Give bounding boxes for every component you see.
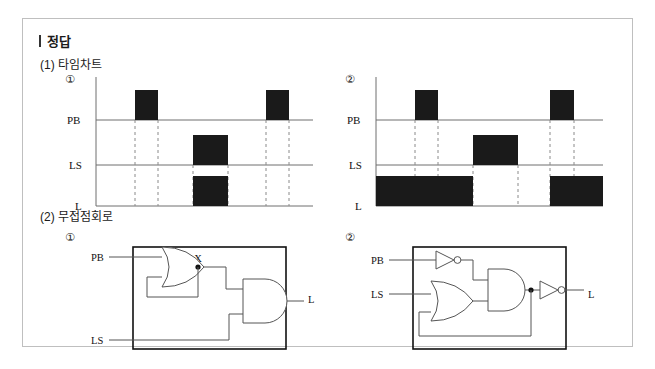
chart2-label-L: L — [355, 200, 362, 212]
circuit2-or-gate — [431, 281, 473, 321]
chart1-L-pulse-1 — [193, 176, 228, 206]
circuit1-input-label-PB: PB — [91, 252, 104, 263]
circuit1-and-gate — [243, 279, 287, 323]
circuit2-output-label-L: L — [588, 289, 594, 300]
circuit2-bubble-pb — [454, 257, 461, 264]
answer-title: 정답 — [39, 31, 71, 50]
circuit2-input-label-PB: PB — [371, 255, 384, 266]
chart2-label-PB: PB — [347, 114, 360, 126]
circuit1-wire-ls — [109, 314, 229, 340]
chart1-PB-pulse-2 — [266, 90, 289, 120]
chart1-PB-pulse-1 — [135, 90, 158, 120]
title-marker-bar — [39, 35, 41, 47]
chart1-label-LS: LS — [69, 159, 82, 171]
circuit2-input-label-LS: LS — [371, 289, 383, 300]
circuit2-not-gate-out — [540, 281, 558, 299]
chart2-PB-pulse-2 — [550, 90, 574, 120]
page-root: 정답 (1) 타임차트 (2) 무접점회로 ① ② ① ② PB LS L — [0, 0, 655, 369]
circuit2-and-gate — [488, 269, 525, 311]
circuit2-not-gate-pb — [436, 251, 454, 269]
circuit1-wire-x-to-and — [226, 267, 243, 289]
chart2-L-pulse-2 — [550, 176, 603, 206]
timing-chart-1: PB LS L — [61, 65, 321, 210]
circuit2-bubble-out — [558, 287, 565, 294]
circuit2-wire-notpb-to-and — [461, 260, 488, 280]
circuit1-output-label-L: L — [308, 294, 314, 305]
logic-circuit-1: PB LS X L — [61, 219, 321, 359]
answer-title-text: 정답 — [47, 34, 71, 49]
circuit1-input-label-LS: LS — [91, 335, 103, 346]
chart1-label-L: L — [75, 200, 82, 212]
answer-card: 정답 (1) 타임차트 (2) 무접점회로 ① ② ① ② PB LS L — [22, 18, 633, 347]
chart2-LS-pulse-1 — [473, 135, 518, 165]
chart2-label-LS: LS — [349, 159, 362, 171]
chart1-label-PB: PB — [67, 114, 80, 126]
chart2-PB-pulse-1 — [415, 90, 438, 120]
chart2-L-pulse-1 — [376, 176, 473, 206]
timing-chart-2: PB LS L — [341, 65, 611, 210]
logic-circuit-2: PB LS X L — [341, 219, 611, 359]
chart1-LS-pulse-1 — [193, 135, 228, 165]
